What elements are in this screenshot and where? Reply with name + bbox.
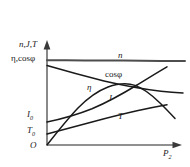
y-axis-label-secondary: η,cosφ [11, 54, 35, 63]
curve-speed-n [47, 60, 185, 61]
y-axis-label-primary: n,J,T [19, 40, 37, 49]
characteristic-curves-figure: n,J,T η,cosφ P2 O n cosφ η J T I0 T0 [0, 0, 190, 167]
y-axis-arrow-icon [44, 40, 51, 50]
x-axis-label: P2 [163, 149, 172, 160]
curve-label-power-factor: cosφ [105, 70, 122, 79]
current-intercept-subscript: 0 [30, 115, 33, 121]
curve-torque-t [47, 105, 167, 134]
curve-label-current: J [108, 94, 112, 103]
torque-intercept-label: T0 [27, 126, 35, 137]
x-axis-arrow-icon [173, 142, 183, 148]
current-intercept-label: I0 [27, 110, 33, 121]
torque-intercept-subscript: 0 [32, 131, 35, 137]
x-axis-label-subscript: 2 [169, 154, 172, 160]
curve-label-speed: n [118, 51, 123, 60]
plot-area [0, 0, 190, 167]
curve-label-efficiency: η [87, 83, 91, 92]
origin-label: O [30, 141, 37, 150]
curve-label-torque: T [118, 112, 123, 121]
